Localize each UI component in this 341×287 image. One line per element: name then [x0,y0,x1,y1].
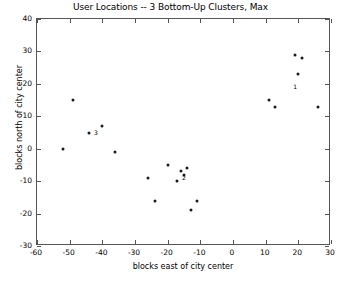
y-tick-mark [37,19,41,20]
y-tick-label: 30 [22,46,32,55]
x-tick-mark-top [266,19,267,23]
y-tick-mark-right [325,246,329,247]
x-tick-label: -40 [95,248,107,257]
plot-area: 321 [36,18,330,245]
y-tick-label: -20 [20,208,32,217]
x-tick-mark [233,240,234,244]
x-tick-label: 0 [230,248,235,257]
y-tick-mark-right [325,51,329,52]
cluster-label: 1 [293,84,297,90]
x-tick-label: 20 [293,248,303,257]
y-tick-mark [37,181,41,182]
chart-title: User Locations -- 3 Bottom-Up Clusters, … [0,2,341,12]
x-tick-label: -50 [63,248,75,257]
x-tick-mark [37,240,38,244]
x-tick-mark-top [233,19,234,23]
y-tick-label: 40 [22,14,32,23]
cluster-label: 3 [94,130,98,136]
y-tick-label: 20 [22,78,32,87]
y-tick-mark-right [325,181,329,182]
x-tick-label: -20 [161,248,173,257]
y-tick-mark-right [325,214,329,215]
x-axis-label: blocks east of city center [36,262,330,271]
x-tick-mark-top [135,19,136,23]
x-tick-mark [298,240,299,244]
x-tick-label: -30 [128,248,140,257]
cluster-label: 2 [182,175,186,181]
x-tick-mark [135,240,136,244]
y-axis-label: blocks north of city center [15,48,24,188]
x-tick-mark [266,240,267,244]
y-tick-mark-right [325,116,329,117]
y-tick-mark-right [325,84,329,85]
y-tick-mark [37,116,41,117]
y-tick-label: -30 [20,241,32,250]
x-tick-label: -10 [193,248,205,257]
x-tick-mark-top [70,19,71,23]
x-tick-mark [168,240,169,244]
x-tick-mark [331,240,332,244]
scatter-plot-figure: User Locations -- 3 Bottom-Up Clusters, … [0,0,341,287]
x-tick-label: 30 [325,248,335,257]
y-tick-mark-right [325,149,329,150]
x-tick-mark-top [298,19,299,23]
x-tick-mark [102,240,103,244]
y-tick-mark [37,149,41,150]
y-tick-mark-right [325,19,329,20]
y-tick-label: 10 [22,111,32,120]
x-tick-mark-top [168,19,169,23]
y-tick-mark [37,84,41,85]
x-tick-mark-top [200,19,201,23]
x-tick-label: 10 [260,248,270,257]
x-tick-mark [70,240,71,244]
y-tick-mark [37,246,41,247]
y-tick-mark [37,51,41,52]
y-tick-label: 0 [27,143,32,152]
cluster-labels-layer: 321 [37,19,329,244]
x-tick-mark-top [331,19,332,23]
x-tick-mark [200,240,201,244]
x-tick-mark-top [102,19,103,23]
y-tick-mark [37,214,41,215]
